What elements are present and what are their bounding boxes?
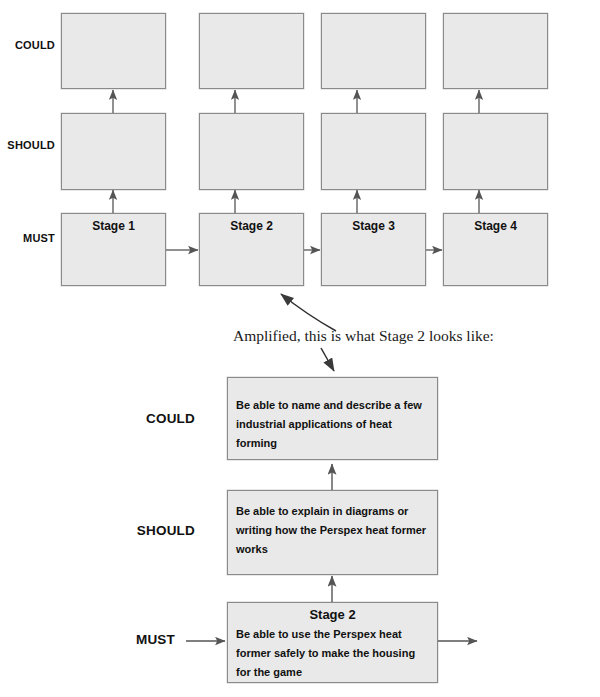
overview-stage-title-1: Stage 1 <box>62 219 165 233</box>
detail-should-box[interactable]: Be able to explain in diagrams or writin… <box>227 490 438 575</box>
overview-must-box-stage-1[interactable]: Stage 1 <box>61 213 166 286</box>
amplify-curved-arrow <box>281 294 336 331</box>
amplify-caption: Amplified, this is what Stage 2 looks li… <box>233 327 494 345</box>
overview-could-box-stage-2[interactable] <box>199 13 304 89</box>
overview-should-box-stage-1[interactable] <box>61 113 166 190</box>
detail-could-box[interactable]: Be able to name and describe a few indus… <box>227 377 438 460</box>
overview-could-box-stage-3[interactable] <box>321 13 426 89</box>
detail-stage-title: Stage 2 <box>228 607 437 622</box>
overview-stage-title-3: Stage 3 <box>322 219 425 233</box>
amplify-down-arrow <box>321 348 334 371</box>
overview-must-box-stage-4[interactable]: Stage 4 <box>443 213 548 286</box>
overview-could-box-stage-1[interactable] <box>61 13 166 89</box>
overview-should-box-stage-2[interactable] <box>199 113 304 190</box>
overview-should-box-stage-3[interactable] <box>321 113 426 190</box>
overview-row-label-could: COULD <box>0 39 55 51</box>
detail-must-box[interactable]: Stage 2 Be able to use the Perspex heat … <box>227 602 438 683</box>
detail-must-text: Be able to use the Perspex heat former s… <box>236 625 429 682</box>
diagram-canvas: COULD SHOULD MUST Stage 1 Stage 2 Stage … <box>0 0 600 697</box>
overview-row-label-should: SHOULD <box>0 139 55 151</box>
overview-should-box-stage-4[interactable] <box>443 113 548 190</box>
overview-row-label-must: MUST <box>0 232 55 244</box>
detail-row-label-must: MUST <box>60 632 175 647</box>
overview-stage-title-4: Stage 4 <box>444 219 547 233</box>
overview-must-box-stage-3[interactable]: Stage 3 <box>321 213 426 286</box>
detail-row-label-could: COULD <box>60 411 195 426</box>
overview-could-box-stage-4[interactable] <box>443 13 548 89</box>
overview-stage-title-2: Stage 2 <box>200 219 303 233</box>
connector-layer <box>0 0 600 697</box>
detail-should-text: Be able to explain in diagrams or writin… <box>236 502 429 559</box>
overview-must-box-stage-2[interactable]: Stage 2 <box>199 213 304 286</box>
detail-could-text: Be able to name and describe a few indus… <box>236 396 429 453</box>
detail-row-label-should: SHOULD <box>60 523 195 538</box>
